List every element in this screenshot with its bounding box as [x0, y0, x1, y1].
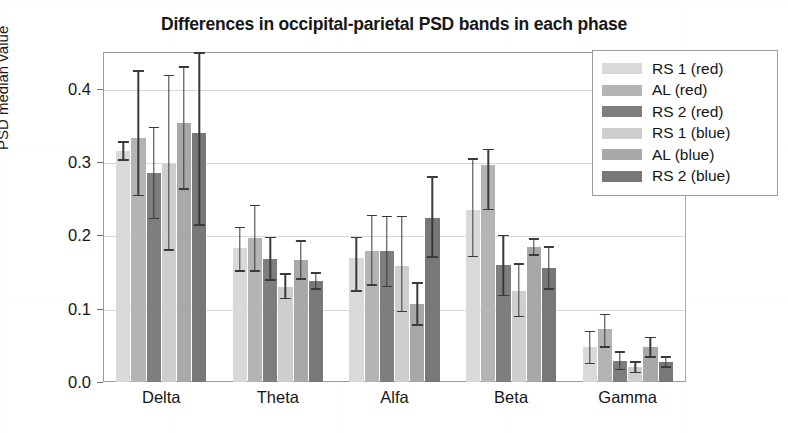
error-bar-cap-top [645, 337, 655, 339]
error-bar-cap-top [367, 215, 377, 217]
error-bar [527, 238, 541, 256]
error-bar-line [138, 70, 139, 196]
legend-item[interactable]: AL (red) [602, 80, 769, 102]
error-bar-cap-bottom [149, 218, 159, 220]
error-bar-cap-top [164, 75, 174, 77]
error-bar-line [153, 127, 154, 219]
error-bar [410, 282, 424, 325]
error-bar [598, 314, 612, 348]
error-bar [481, 149, 495, 211]
y-tick-mark [97, 235, 103, 236]
legend-swatch [602, 106, 642, 117]
error-bar-cap-bottom [367, 284, 377, 286]
error-bar-cap-bottom [265, 279, 275, 281]
error-bar-cap-bottom [529, 254, 539, 256]
error-bar-cap-top [412, 282, 422, 284]
y-tick-label: 0.1 [31, 299, 91, 318]
error-bar-cap-bottom [645, 356, 655, 358]
error-bar-line [270, 237, 271, 281]
error-bar-cap-bottom [397, 311, 407, 313]
error-bar-cap-bottom [630, 372, 640, 374]
error-bar-line [589, 331, 590, 365]
error-bar [162, 75, 176, 251]
error-bar [613, 351, 627, 370]
error-bar-line [503, 235, 504, 297]
error-bar-cap-bottom [118, 159, 128, 161]
error-bar-line [650, 337, 651, 358]
error-bar-line [548, 246, 549, 289]
legend-item[interactable]: RS 1 (red) [602, 58, 769, 80]
y-axis-title: PSD median value [0, 0, 11, 150]
legend-swatch [602, 149, 642, 160]
legend-item-label: AL (blue) [652, 146, 714, 164]
error-bar-cap-top [382, 216, 392, 218]
error-bar-line [285, 273, 286, 299]
error-bar [425, 176, 439, 258]
error-bar-cap-bottom [498, 295, 508, 297]
legend-item[interactable]: RS 2 (blue) [602, 166, 769, 188]
error-bar-cap-bottom [194, 224, 204, 226]
error-bar-line [488, 149, 489, 211]
error-bar-cap-top [179, 66, 189, 68]
error-bar-cap-bottom [585, 363, 595, 365]
error-bar-line [199, 52, 200, 226]
error-bar [131, 70, 145, 196]
error-bar-cap-top [250, 205, 260, 207]
legend-swatch [602, 63, 642, 74]
error-bar-cap-top [585, 331, 595, 333]
error-bar [192, 52, 206, 226]
error-bar-cap-bottom [468, 256, 478, 258]
error-bar [583, 331, 597, 365]
y-tick-mark [97, 162, 103, 163]
error-bar [643, 337, 657, 358]
error-bar-line [518, 263, 519, 317]
error-bar-cap-top [630, 361, 640, 363]
error-bar-cap-bottom [179, 188, 189, 190]
bar [278, 287, 292, 382]
x-tick-label: Delta [142, 388, 181, 407]
error-bar-cap-bottom [483, 209, 493, 211]
error-bar-cap-bottom [412, 324, 422, 326]
error-bar-cap-top [280, 273, 290, 275]
error-bar-cap-top [514, 263, 524, 265]
error-bar [628, 361, 642, 373]
legend-item[interactable]: RS 1 (blue) [602, 123, 769, 145]
error-bar-line [386, 216, 387, 288]
error-bar-cap-top [194, 52, 204, 54]
error-bar-cap-top [544, 246, 554, 248]
error-bar-line [183, 66, 184, 190]
chart-legend: RS 1 (red)AL (red)RS 2 (red)RS 1 (blue)A… [592, 50, 778, 196]
error-bar-line [371, 215, 372, 286]
x-tick-label: Alfa [380, 388, 408, 407]
error-bar-cap-top [615, 351, 625, 353]
error-bar-cap-bottom [351, 290, 361, 292]
error-bar-cap-top [483, 149, 493, 151]
error-bar-cap-top [235, 227, 245, 229]
chart-figure: Differences in occipital-parietal PSD ba… [0, 0, 788, 433]
error-bar-line [417, 282, 418, 325]
error-bar-cap-bottom [600, 346, 610, 348]
legend-swatch [602, 171, 642, 182]
error-bar-cap-bottom [164, 249, 174, 251]
y-tick-mark [97, 89, 103, 90]
legend-item[interactable]: RS 2 (red) [602, 101, 769, 123]
y-tick-mark [97, 309, 103, 310]
error-bar-cap-top [498, 235, 508, 237]
legend-item-label: RS 2 (red) [652, 103, 724, 121]
error-bar [278, 273, 292, 299]
y-tick-mark [97, 382, 103, 383]
error-bar [395, 216, 409, 313]
legend-item[interactable]: AL (blue) [602, 144, 769, 166]
legend-item-label: RS 2 (blue) [652, 167, 730, 185]
error-bar [496, 235, 510, 297]
error-bar [466, 158, 480, 257]
bar [527, 247, 541, 382]
error-bar [542, 246, 556, 289]
error-bar-cap-top [661, 356, 671, 358]
error-bar [380, 216, 394, 288]
error-bar-cap-top [118, 141, 128, 143]
error-bar-line [604, 314, 605, 348]
error-bar-cap-top [397, 216, 407, 218]
error-bar-cap-top [311, 272, 321, 274]
error-bar [365, 215, 379, 286]
